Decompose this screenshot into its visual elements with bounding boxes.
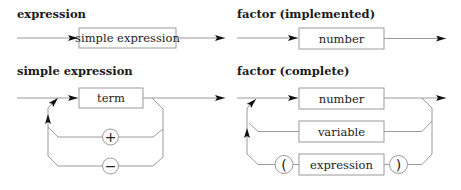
box-label: expression [310,158,373,172]
diagram-title: expression [17,7,87,21]
loop-return-arrow [48,98,58,114]
diagram-factor-implemented: factor (implemented) number [237,7,446,49]
diagram-factor-complete: factor (complete) number variable expres… [237,64,446,175]
left-rail [247,128,258,165]
left-branch [249,123,258,132]
box-label: number [319,92,365,106]
loop-left-branch [48,127,58,137]
box-label: variable [317,125,365,139]
right-rail [422,98,432,165]
loop-right-rail [152,98,163,166]
diagram-title: factor (complete) [237,64,350,78]
right-branch [422,121,432,132]
box-label: simple expression [75,31,180,45]
loop-left-rail [48,114,58,166]
minus-symbol: − [105,158,117,174]
box-label: number [319,32,365,46]
diagram-title: factor (implemented) [237,7,375,21]
open-paren-symbol: ( [281,157,286,173]
left-return-arrow [247,99,256,128]
diagram-expression: expression simple expression [17,7,225,48]
loop-right-branch [153,129,163,137]
box-label: term [97,91,125,105]
syntax-diagrams: expression simple expression factor (imp… [0,0,461,190]
diagram-title: simple expression [17,64,133,78]
plus-symbol: + [105,129,117,145]
diagram-simple-expression: simple expression term + − [17,64,225,174]
close-paren-symbol: ) [396,157,401,173]
